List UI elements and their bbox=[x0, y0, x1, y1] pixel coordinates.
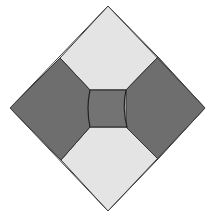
center-square bbox=[88, 90, 127, 127]
quilt-diagram bbox=[0, 0, 214, 216]
